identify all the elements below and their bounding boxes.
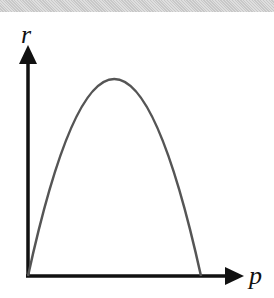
x-axis-arrow-icon bbox=[225, 267, 244, 285]
diagram-canvas: r p bbox=[0, 0, 274, 298]
y-axis-label: r bbox=[21, 20, 32, 49]
x-axis-label: p bbox=[247, 261, 262, 290]
curve bbox=[28, 79, 201, 276]
